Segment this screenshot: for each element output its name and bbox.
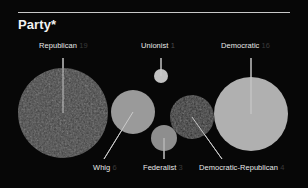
bubble-label-whig[interactable]: Whig 6 (93, 163, 117, 172)
label-value: 16 (259, 41, 270, 50)
bubble-label-federalist[interactable]: Federalist 3 (143, 163, 183, 172)
label-name: Democratic-Republican (199, 163, 278, 172)
bubble-group (18, 58, 288, 159)
bubble-label-democratic-republican[interactable]: Democratic-Republican 4 (199, 163, 284, 172)
label-value: 1 (169, 41, 175, 50)
chart-canvas: Party* Republican 19Unionist 1Democratic… (0, 0, 308, 188)
bubble-chart (0, 0, 308, 188)
label-name: Republican (39, 41, 77, 50)
bubble-label-republican[interactable]: Republican 19 (39, 41, 88, 50)
label-name: Unionist (141, 41, 169, 50)
label-name: Federalist (143, 163, 176, 172)
bubble-label-democratic[interactable]: Democratic 16 (221, 41, 270, 50)
label-name: Democratic (221, 41, 259, 50)
bubble-label-unionist[interactable]: Unionist 1 (141, 41, 175, 50)
label-value: 4 (278, 163, 284, 172)
label-value: 6 (110, 163, 116, 172)
label-value: 3 (176, 163, 182, 172)
label-name: Whig (93, 163, 110, 172)
label-value: 19 (77, 41, 88, 50)
